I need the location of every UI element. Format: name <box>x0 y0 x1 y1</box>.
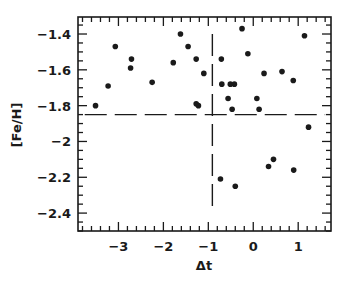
data-point <box>185 44 191 50</box>
data-point <box>291 167 297 173</box>
y-axis-label: [Fe/H] <box>9 103 24 148</box>
data-point <box>196 103 202 109</box>
data-point <box>239 26 245 32</box>
data-point <box>218 176 224 182</box>
data-point <box>219 81 225 87</box>
data-point <box>105 83 111 89</box>
data-point <box>201 71 207 77</box>
x-axis-label: Δt <box>196 258 212 273</box>
data-point <box>178 31 184 37</box>
scatter-chart: −3−2−101 −2.4−2.2−2−1.8−1.6−1.4 Δt [Fe/H… <box>0 0 347 283</box>
y-tick-label: −1.8 <box>37 99 71 114</box>
x-tick-label: 1 <box>294 239 303 254</box>
data-point <box>256 106 262 112</box>
data-point <box>279 69 285 75</box>
data-point <box>271 157 277 163</box>
data-point <box>261 71 267 77</box>
data-point <box>170 60 176 66</box>
data-point <box>232 183 238 189</box>
data-point <box>219 56 225 62</box>
data-point <box>129 56 135 62</box>
data-point <box>193 56 199 62</box>
data-point <box>232 81 238 87</box>
data-point <box>290 78 296 84</box>
x-tick-labels: −3−2−101 <box>108 239 302 254</box>
y-tick-label: −2.2 <box>37 170 71 185</box>
data-point <box>229 106 235 112</box>
x-tick-label: −1 <box>198 239 218 254</box>
x-tick-label: −2 <box>153 239 173 254</box>
x-tick-label: −3 <box>108 239 128 254</box>
y-tick-label: −2.4 <box>37 206 71 221</box>
data-point <box>306 124 312 130</box>
data-point <box>254 96 260 102</box>
data-point <box>225 96 231 102</box>
reference-lines <box>85 34 325 213</box>
y-tick-label: −2 <box>51 134 71 149</box>
y-tick-label: −1.6 <box>37 63 71 78</box>
data-point <box>128 65 134 71</box>
data-point <box>93 103 99 109</box>
data-points <box>93 26 312 189</box>
data-point <box>112 44 118 50</box>
y-tick-label: −1.4 <box>37 27 71 42</box>
data-point <box>302 33 308 39</box>
data-point <box>245 51 251 57</box>
data-point <box>149 80 155 86</box>
y-tick-labels: −2.4−2.2−2−1.8−1.6−1.4 <box>37 27 71 221</box>
data-point <box>266 164 272 170</box>
x-tick-label: 0 <box>249 239 258 254</box>
